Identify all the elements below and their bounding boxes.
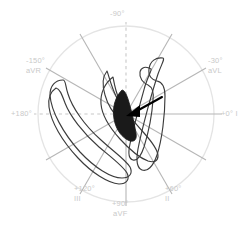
label-lead-ii-degrees: +60° <box>165 184 182 194</box>
label-avf-degrees: +90° <box>112 199 129 209</box>
label-lead-i-degrees: +0° I <box>221 109 238 119</box>
label-lead-i: +0° I <box>221 109 238 119</box>
label-avl-degrees: -30° <box>208 56 223 66</box>
label-lead-iii: +120° III <box>74 184 95 203</box>
label-minus-90-degrees: -90° <box>110 9 125 19</box>
label-avf: +90° aVF <box>112 199 129 218</box>
label-lead-ii: +60° II <box>165 184 182 203</box>
label-lead-ii-lead: II <box>165 194 182 204</box>
label-lead-iii-degrees: +120° <box>74 184 95 194</box>
label-avl-lead: aVL <box>208 66 223 76</box>
label-180-degrees: +180° <box>11 109 32 119</box>
label-minus-90: -90° <box>110 9 125 19</box>
vectorcardiogram-figure: -90° -150° aVR -30° aVL +180° +0° I +120… <box>0 0 251 234</box>
label-avr-degrees: -150° <box>26 56 45 66</box>
label-avf-lead: aVF <box>112 209 129 219</box>
label-lead-iii-lead: III <box>74 194 95 204</box>
label-avr: -150° aVR <box>26 56 45 75</box>
label-180: +180° <box>11 109 32 119</box>
label-avr-lead: aVR <box>26 66 45 76</box>
label-avl: -30° aVL <box>208 56 223 75</box>
